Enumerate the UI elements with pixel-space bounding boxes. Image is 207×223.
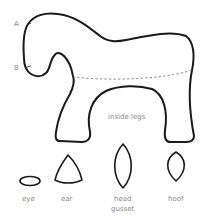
eye-piece-outline [20, 177, 40, 186]
point-a-label: A [14, 20, 19, 28]
ear-piece-outline [55, 155, 82, 183]
point-b-label: B [14, 64, 19, 72]
hoof-label: hoof [168, 195, 183, 203]
head-gusset-label-line2: gusset [111, 205, 134, 213]
body-piece-outline [23, 13, 194, 142]
head-gusset-piece-outline [115, 144, 132, 188]
inside-legs-label: inside legs [108, 113, 145, 121]
head-gusset-label-line1: head [114, 195, 131, 203]
dashed-fold-line [73, 70, 192, 79]
hoof-piece-outline [168, 152, 185, 181]
ear-label: ear [61, 195, 72, 203]
eye-label: eye [22, 195, 35, 203]
point-b-tick [27, 66, 31, 67]
pattern-diagram [0, 0, 207, 223]
